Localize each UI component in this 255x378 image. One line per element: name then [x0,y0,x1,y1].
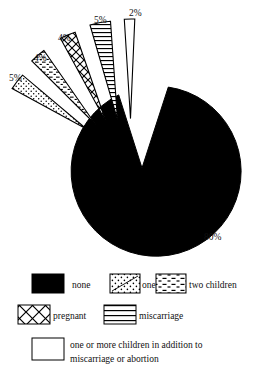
pie-slice-other[interactable] [124,19,135,119]
legend-label-miscarriage: miscarriage [139,311,183,321]
pie-chart-figure: 5% 4% 4% 5% 2% 80% none one child two ch… [0,0,255,378]
legend-label-none: none [72,280,90,290]
legend-swatch-miscarriage [104,305,136,324]
pie-slice-none[interactable] [71,87,241,256]
chart-svg: 5% 4% 4% 5% 2% 80% none one child two ch… [0,0,255,378]
legend-item-miscarriage[interactable]: miscarriage [104,305,183,324]
value-label-two-children: 4% [34,53,47,63]
legend-item-two-children[interactable]: two children [156,274,237,293]
legend-item-none[interactable]: none [32,274,90,293]
value-label-one-child: 5% [9,73,22,83]
legend: none one child two children pregnant mis… [18,274,237,364]
legend-label-other-line2: miscarriage or abortion [70,354,159,364]
legend-label-two-children: two children [189,280,237,290]
value-label-other: 2% [129,8,142,18]
legend-swatch-none [32,274,64,293]
value-label-miscarriage: 5% [94,15,107,25]
value-label-none: 80% [204,232,222,242]
legend-label-pregnant: pregnant [53,311,87,321]
value-label-pregnant: 4% [58,33,71,43]
legend-item-other[interactable]: one or more children in addition to misc… [32,338,203,364]
legend-swatch-two-children [156,274,186,293]
legend-swatch-other [32,338,64,360]
legend-item-pregnant[interactable]: pregnant [18,305,87,324]
legend-label-other-line1: one or more children in addition to [70,340,203,350]
legend-swatch-pregnant [18,305,50,324]
